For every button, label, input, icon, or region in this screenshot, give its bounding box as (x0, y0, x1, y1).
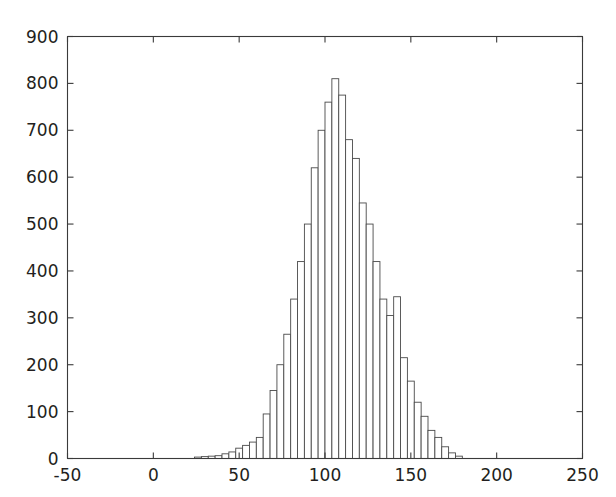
histogram-figure: 0100200300400500600700800900-50050100150… (0, 0, 616, 497)
histogram-bar (270, 391, 277, 459)
x-tick-label: 200 (480, 465, 512, 485)
histogram-bar (298, 262, 305, 459)
histogram-bar (304, 224, 311, 458)
histogram-bar (284, 334, 291, 458)
histogram-bar (407, 381, 414, 458)
histogram-bar (366, 224, 373, 458)
histogram-bar (352, 158, 359, 458)
histogram-bar (380, 299, 387, 458)
histogram-bar (359, 203, 366, 459)
histogram-bar (229, 452, 236, 459)
y-tick-label: 600 (26, 167, 58, 187)
histogram-bar (435, 437, 442, 458)
histogram-bar (401, 358, 408, 459)
histogram-bar (428, 430, 435, 458)
x-tick-label: 150 (395, 465, 427, 485)
histogram-bar (442, 447, 449, 459)
histogram-bar (311, 168, 318, 459)
histogram-bar (222, 454, 229, 459)
histogram-bar (394, 297, 401, 459)
histogram-bar (291, 299, 298, 458)
x-tick-label: 0 (148, 465, 159, 485)
y-tick-label: 300 (26, 308, 58, 328)
histogram-bar (414, 402, 421, 458)
histogram-bar (387, 315, 394, 458)
y-tick-label: 500 (26, 214, 58, 234)
histogram-bar (277, 365, 284, 459)
histogram-bar (339, 95, 346, 458)
histogram-bar (263, 414, 270, 459)
y-tick-label: 800 (26, 73, 58, 93)
x-tick-label: -50 (54, 465, 82, 485)
histogram-bar (346, 140, 353, 459)
histogram-bar (325, 102, 332, 458)
y-tick-label: 900 (26, 27, 58, 47)
plot-area: 0100200300400500600700800900-50050100150… (0, 0, 616, 497)
histogram-bar (249, 442, 256, 458)
histogram-bar (421, 416, 428, 458)
histogram-bar (318, 130, 325, 458)
x-tick-label: 250 (566, 465, 598, 485)
y-tick-label: 200 (26, 355, 58, 375)
histogram-bar (256, 437, 263, 458)
x-tick-label: 100 (309, 465, 341, 485)
histogram-bar (332, 79, 339, 459)
histogram-bars (195, 79, 463, 459)
histogram-bar (243, 445, 250, 458)
y-tick-label: 400 (26, 261, 58, 281)
y-tick-label: 700 (26, 120, 58, 140)
x-tick-label: 50 (228, 465, 250, 485)
histogram-bar (449, 453, 456, 459)
histogram-bar (373, 262, 380, 459)
y-tick-label: 100 (26, 402, 58, 422)
